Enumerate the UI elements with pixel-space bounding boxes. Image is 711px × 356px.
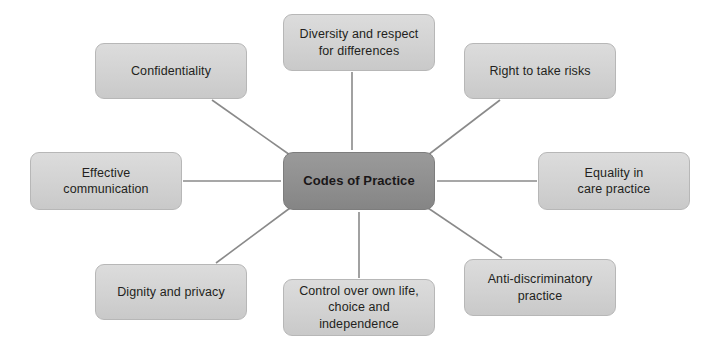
edge-right-to-take-risks <box>428 100 500 155</box>
node-label: Codes of Practice <box>295 172 423 189</box>
node-effective-communication[interactable]: Effectivecommunication <box>30 152 182 210</box>
node-control-over-own-life-choice-and-independence[interactable]: Control over own life,choice andindepend… <box>283 279 435 336</box>
node-label: Diversity and respectfor differences <box>292 26 427 59</box>
diagram-canvas: Codes of Practice Confidentiality Divers… <box>0 0 711 356</box>
node-dignity-and-privacy[interactable]: Dignity and privacy <box>95 264 247 320</box>
edge-dignity <box>216 208 290 263</box>
node-label: Right to take risks <box>481 63 598 80</box>
node-diversity-and-respect-for-differences[interactable]: Diversity and respectfor differences <box>283 14 435 71</box>
node-label: Anti-discriminatorypractice <box>480 271 601 304</box>
node-equality-in-care-practice[interactable]: Equality incare practice <box>538 152 690 210</box>
node-label: Confidentiality <box>123 63 219 80</box>
node-label: Effectivecommunication <box>55 165 156 198</box>
node-label: Equality incare practice <box>570 165 659 198</box>
node-confidentiality[interactable]: Confidentiality <box>95 43 247 99</box>
node-label: Dignity and privacy <box>109 284 233 301</box>
node-codes-of-practice[interactable]: Codes of Practice <box>283 152 435 210</box>
edge-anti-discriminatory <box>428 208 502 258</box>
node-label: Control over own life,choice andindepend… <box>291 283 427 333</box>
edge-confidentiality <box>212 100 290 155</box>
node-right-to-take-risks[interactable]: Right to take risks <box>464 43 616 99</box>
node-anti-discriminatory-practice[interactable]: Anti-discriminatorypractice <box>464 259 616 316</box>
